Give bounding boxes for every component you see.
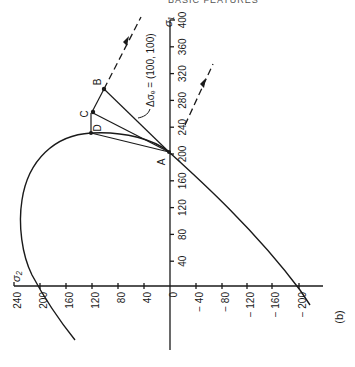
figure-label: (b) [333,310,345,323]
svg-text:− 160: − 160 [270,292,281,318]
stress-path-lines [91,89,169,152]
dashed-loading-paths [104,17,213,125]
point-b-label: B [92,78,103,85]
sigma2-axis [14,282,323,289]
svg-text:160: 160 [177,172,188,189]
point-d-label: D [92,124,103,131]
point-c-marker [91,110,95,114]
svg-text:− 40: − 40 [194,292,205,312]
sigma2-tick-labels: 240 200 160 120 80 40 0 − 40 − 80 − 120 … [12,292,308,318]
sigma2-axis-label: σ₂ [10,270,22,282]
point-b-marker [102,87,106,91]
sigma1-axis-label: σ₁ [162,16,174,27]
svg-text:− 200: − 200 [297,292,308,318]
arrow-icon [200,78,206,88]
sigma1-axis [170,20,175,350]
svg-text:400: 400 [177,11,188,28]
svg-text:0: 0 [168,292,179,298]
delta-sigma-annotation: Δσₑ = (100, 100) [145,33,156,107]
svg-text:120: 120 [177,199,188,216]
svg-text:40: 40 [177,255,188,267]
yield-surface-diagram: 40 80 120 160 200 240 280 320 360 400 σ₁… [0,0,355,367]
svg-text:80: 80 [116,292,127,304]
point-a-label: A [156,158,167,165]
arrow-icon [123,36,129,46]
point-c-label: C [79,110,90,117]
svg-text:120: 120 [90,292,101,309]
point-a-marker [167,150,171,154]
annotation-leader [138,109,150,118]
svg-text:40: 40 [142,292,153,304]
svg-text:80: 80 [177,228,188,240]
svg-text:200: 200 [177,145,188,162]
sigma1-tick-labels: 40 80 120 160 200 240 280 320 360 400 [177,11,188,267]
svg-text:160: 160 [64,292,75,309]
svg-text:240: 240 [12,292,23,309]
svg-text:320: 320 [177,65,188,82]
svg-text:280: 280 [177,92,188,109]
svg-text:360: 360 [177,38,188,55]
svg-text:− 80: − 80 [220,292,231,312]
svg-text:− 120: − 120 [245,292,256,318]
